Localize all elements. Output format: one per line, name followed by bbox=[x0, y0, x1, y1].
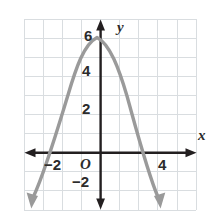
parabola-curve bbox=[27, 38, 166, 209]
x-tick-label-4: 4 bbox=[158, 157, 166, 172]
y-axis-bottom-arrowhead bbox=[96, 199, 105, 210]
y-tick-label-6: 6 bbox=[84, 28, 92, 43]
origin-label: O bbox=[80, 157, 91, 172]
x-tick-label-negative-2: −2 bbox=[44, 157, 61, 172]
y-tick-label-4: 4 bbox=[82, 63, 90, 78]
y-tick-label-negative-2: −2 bbox=[72, 174, 89, 189]
graph-figure: y x 6 4 2 −2 O −2 4 bbox=[0, 0, 219, 221]
y-tick-label-2: 2 bbox=[82, 101, 90, 116]
grid-lines bbox=[24, 19, 196, 210]
y-axis-label: y bbox=[117, 20, 124, 35]
coordinate-plane bbox=[0, 0, 219, 221]
x-axis-left-arrowhead bbox=[25, 148, 36, 157]
curve-left-arrowhead bbox=[27, 193, 38, 209]
x-axis-label: x bbox=[198, 128, 206, 143]
x-axis-right-arrowhead bbox=[186, 148, 197, 157]
y-axis-top-arrowhead bbox=[96, 20, 105, 31]
